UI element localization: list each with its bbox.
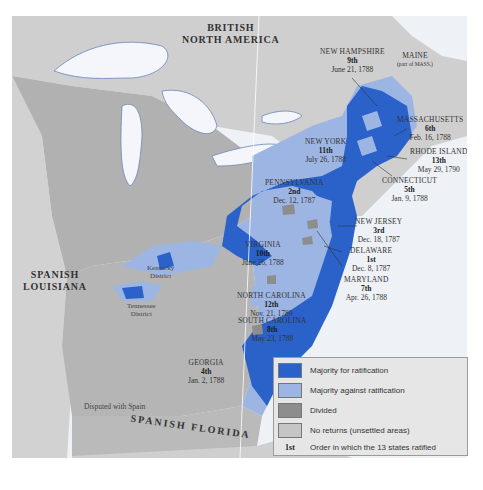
- region-line: Tennessee: [127, 302, 156, 310]
- state-label-pennsylvania: PENNSYLVANIA 2nd Dec. 12, 1787: [265, 178, 324, 205]
- state-order: 4th: [188, 367, 224, 376]
- state-date: Apr. 26, 1788: [344, 293, 389, 302]
- state-order: 1st: [350, 255, 392, 264]
- state-order: 8th: [238, 325, 306, 334]
- region-label-kentucky: Kentucky District: [147, 264, 174, 280]
- legend-swatch-divided: [278, 403, 302, 418]
- state-name: NORTH CAROLINA: [237, 291, 306, 300]
- legend-item-no-returns: No returns (unsettled areas): [278, 422, 410, 438]
- state-order: 12th: [237, 300, 306, 309]
- state-name: DELAWARE: [350, 246, 392, 255]
- state-order: 9th: [320, 56, 385, 65]
- region-label-maine: MAINE (part of MASS.): [397, 51, 433, 69]
- state-name: GEORGIA: [188, 358, 224, 367]
- state-name: MAINE: [397, 51, 433, 60]
- state-date: June 21, 1788: [320, 65, 385, 74]
- state-order: 7th: [344, 284, 389, 293]
- region-label-disputed: Disputed with Spain: [84, 403, 145, 411]
- region-label-tennessee: Tennessee District: [127, 302, 156, 318]
- legend-label: Divided: [310, 406, 337, 415]
- state-date: Jan. 9, 1788: [382, 194, 437, 203]
- state-label-delaware: DELAWARE 1st Dec. 8, 1787: [350, 246, 392, 273]
- legend-swatch-for: [278, 363, 302, 378]
- state-label-connecticut: CONNECTICUT 5th Jan. 9, 1788: [382, 176, 437, 203]
- state-order: 2nd: [265, 187, 324, 196]
- state-label-north-carolina: NORTH CAROLINA 12th Nov. 21, 1789: [237, 291, 306, 318]
- state-date: Dec. 12, 1787: [265, 196, 324, 205]
- state-name: VIRGINIA: [242, 240, 284, 249]
- state-label-south-carolina: SOUTH CAROLINA 8th May 23, 1788: [238, 316, 306, 343]
- legend-item-divided: Divided: [278, 402, 337, 418]
- region-label-spanish-louisiana: SPANISH LOUISIANA: [23, 269, 87, 293]
- state-label-virginia: VIRGINIA 10th June 26, 1788: [242, 240, 284, 267]
- state-name: NEW YORK: [305, 137, 346, 146]
- legend-label: Order in which the 13 states ratified: [310, 443, 436, 452]
- state-order: 13th: [410, 156, 467, 165]
- region-label-british-north-america: BRITISH NORTH AMERICA: [182, 22, 280, 46]
- state-date: Jan. 2, 1788: [188, 376, 224, 385]
- region-line: District: [147, 272, 174, 280]
- region-line: Kentucky: [147, 264, 174, 272]
- state-date: May 23, 1788: [238, 334, 306, 343]
- state-label-rhode-island: RHODE ISLAND 13th May 29, 1790: [410, 147, 467, 174]
- state-label-maryland: MARYLAND 7th Apr. 26, 1788: [344, 275, 389, 302]
- state-date: May 29, 1790: [410, 165, 467, 174]
- state-name: NEW HAMPSHIRE: [320, 47, 385, 56]
- state-note: (part of MASS.): [397, 60, 433, 69]
- state-date: July 26, 1788: [305, 155, 346, 164]
- region-line: NORTH AMERICA: [182, 34, 280, 46]
- legend-item-against: Majority against ratification: [278, 382, 405, 398]
- region-line: District: [127, 310, 156, 318]
- region-line: LOUISIANA: [23, 281, 87, 293]
- legend-label: Majority for ratification: [310, 366, 388, 375]
- state-name: MASSACHUSETTS: [397, 115, 463, 124]
- state-date: Dec. 8, 1787: [350, 264, 392, 273]
- state-order: 5th: [382, 185, 437, 194]
- state-date: Feb. 16, 1788: [397, 133, 463, 142]
- map-legend: Majority for ratification Majority again…: [273, 357, 468, 456]
- region-line: BRITISH: [182, 22, 280, 34]
- state-date: Dec. 18, 1787: [355, 235, 403, 244]
- legend-label: No returns (unsettled areas): [310, 426, 410, 435]
- legend-swatch-against: [278, 383, 302, 398]
- state-name: RHODE ISLAND: [410, 147, 467, 156]
- state-name: SOUTH CAROLINA: [238, 316, 306, 325]
- legend-item-for: Majority for ratification: [278, 362, 388, 378]
- region-line: SPANISH: [23, 269, 87, 281]
- state-order: 10th: [242, 249, 284, 258]
- state-name: MARYLAND: [344, 275, 389, 284]
- state-order: 11th: [305, 146, 346, 155]
- state-order: 6th: [397, 124, 463, 133]
- state-label-georgia: GEORGIA 4th Jan. 2, 1788: [188, 358, 224, 385]
- legend-item-order: 1st Order in which the 13 states ratifie…: [278, 439, 436, 455]
- state-label-massachusetts: MASSACHUSETTS 6th Feb. 16, 1788: [397, 115, 463, 142]
- state-name: CONNECTICUT: [382, 176, 437, 185]
- legend-order-sample: 1st: [278, 443, 302, 452]
- state-label-new-hampshire: NEW HAMPSHIRE 9th June 21, 1788: [320, 47, 385, 74]
- state-name: NEW JERSEY: [355, 217, 403, 226]
- state-label-new-york: NEW YORK 11th July 26, 1788: [305, 137, 346, 164]
- legend-label: Majority against ratification: [310, 386, 405, 395]
- state-order: 3rd: [355, 226, 403, 235]
- legend-swatch-no-returns: [278, 423, 302, 438]
- state-label-new-jersey: NEW JERSEY 3rd Dec. 18, 1787: [355, 217, 403, 244]
- state-date: June 26, 1788: [242, 258, 284, 267]
- state-name: PENNSYLVANIA: [265, 178, 324, 187]
